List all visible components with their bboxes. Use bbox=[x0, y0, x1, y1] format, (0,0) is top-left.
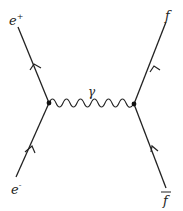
f-line bbox=[134, 22, 166, 104]
label-e-minus: e- bbox=[11, 181, 22, 197]
vertex-left bbox=[47, 101, 52, 106]
feynman-diagram: e+ e- f f γ bbox=[0, 0, 183, 211]
label-f-bar: f bbox=[161, 192, 171, 208]
e-minus-line bbox=[16, 103, 49, 177]
svg-text:f: f bbox=[162, 193, 170, 208]
label-photon: γ bbox=[88, 85, 96, 99]
photon-propagator bbox=[49, 99, 134, 107]
f-bar-line bbox=[134, 104, 166, 188]
vertex-right bbox=[132, 102, 137, 107]
label-f: f bbox=[164, 8, 172, 23]
arrow-f-icon bbox=[150, 66, 160, 72]
label-e-plus: e+ bbox=[9, 12, 23, 28]
